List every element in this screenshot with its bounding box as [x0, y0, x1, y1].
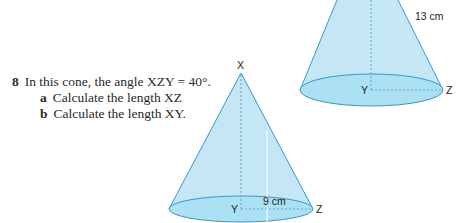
- part-a-text: Calculate the length XZ: [53, 90, 182, 105]
- question-number: 8: [12, 74, 19, 89]
- back-y-label: Y: [361, 84, 368, 96]
- back-z-label: Z: [446, 84, 453, 96]
- front-x-label: X: [237, 59, 244, 71]
- back-slant-label: 13 cm: [415, 10, 444, 22]
- front-radius-label: 9 cm: [263, 195, 286, 207]
- part-b-text: Calculate the length XY.: [54, 106, 186, 121]
- part-a-letter: a: [40, 90, 47, 105]
- question-8: 8In this cone, the angle XZY = 40°. aCal…: [12, 74, 211, 122]
- part-b-letter: b: [40, 106, 48, 121]
- question-stem: 8In this cone, the angle XZY = 40°.: [12, 74, 211, 90]
- question-stem-text: In this cone, the angle XZY = 40°.: [25, 74, 211, 89]
- back-cone: 13 cm Y Z: [300, 0, 453, 106]
- front-z-label: Z: [316, 203, 323, 215]
- question-part-a: aCalculate the length XZ: [12, 90, 211, 106]
- question-part-b: bCalculate the length XY.: [12, 106, 211, 122]
- front-y-label: Y: [231, 203, 238, 215]
